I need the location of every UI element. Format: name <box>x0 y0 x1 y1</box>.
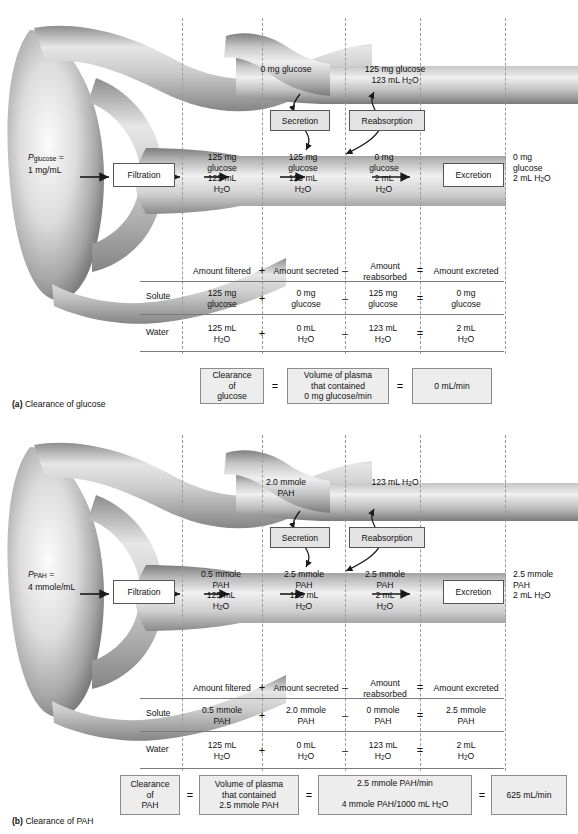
table-cell-solute-reabsorbed: 0 mmole PAH <box>345 705 421 726</box>
table-row-label-water: Water <box>146 327 169 338</box>
clearance-definition-box: Volume of plasma that contained 2.5 mmol… <box>199 775 299 815</box>
table-header-excreted: Amount excreted <box>424 683 508 694</box>
reabsorption-box[interactable]: Reabsorption <box>349 527 425 548</box>
vessel-secreted-line1: 2.0 mmole <box>266 477 306 487</box>
plasma-equals: = <box>49 569 54 579</box>
excreted-water: 2 mL H2O <box>513 590 551 600</box>
table-header-reabsorbed: Amount reabsorbed <box>349 261 421 282</box>
secretion-box[interactable]: Secretion <box>270 527 330 548</box>
table-header-reabsorbed: Amount reabsorbed <box>349 678 421 699</box>
vessel-reabsorbed-water: 123 mL H2O <box>371 477 418 487</box>
equation-equals-3: = <box>475 790 489 801</box>
stage-secretion-solute-unit: glucose <box>288 163 318 173</box>
tubule-stage-after-reabsorption: 0 mg glucose 2 mL H2O <box>349 152 419 197</box>
clearance-term-box: Clearance of PAH <box>120 775 180 815</box>
stage-reabsorption-solute: 0 mg <box>374 152 393 162</box>
table-cell-solute-excreted: 2.5 mmole PAH <box>422 705 510 726</box>
stage-secretion-solute: 2.5 mmole <box>284 569 324 579</box>
clearance-result-box: 0 mL/min <box>412 368 492 404</box>
stage-filtered-water-unit: H2O <box>213 601 229 611</box>
stage-reabsorption-solute-unit: PAH <box>376 580 393 590</box>
stage-reabsorption-solute-unit: glucose <box>369 163 399 173</box>
tubule-stage-after-secretion: 2.5 mmole PAH 125 mL H2O <box>264 569 344 614</box>
filtration-label: Filtration <box>128 587 161 597</box>
excretion-box[interactable]: Excretion <box>443 163 504 187</box>
table-header-secreted: Amount secreted <box>266 266 346 277</box>
secretion-box[interactable]: Secretion <box>270 110 330 131</box>
water-unit: H2O <box>458 334 474 344</box>
table-cell-solute-excreted: 0 mg glucose <box>424 288 508 309</box>
vessel-reabsorbed-label: 125 mg glucose 123 mL H2O <box>340 64 450 87</box>
table-cell-water-secreted: 0 mL H2O <box>266 323 346 346</box>
table-cell-solute-filtered: 125 mg glucose <box>182 288 262 309</box>
reabsorption-label: Reabsorption <box>361 116 412 126</box>
table-cell-water-excreted: 2 mL H2O <box>424 323 508 346</box>
stage-filtered-solute: 0.5 mmole <box>201 569 241 579</box>
excreted-output-label: 2.5 mmole PAH 2 mL H2O <box>513 569 578 603</box>
filtration-box[interactable]: Filtration <box>113 580 175 604</box>
stage-secretion-solute: 125 mg <box>289 152 318 162</box>
reabsorption-box[interactable]: Reabsorption <box>349 110 425 131</box>
stage-filtered-solute-unit: glucose <box>207 163 237 173</box>
water-unit: H2O <box>214 334 230 344</box>
excretion-label: Excretion <box>456 587 492 597</box>
table-header-filtered: Amount filtered <box>182 266 262 277</box>
table-row-label-water: Water <box>146 744 169 755</box>
excreted-solute-unit: glucose <box>513 163 543 173</box>
stage-reabsorption-water: 2 mL <box>375 590 394 600</box>
panel-b-caption-text: Clearance of PAH <box>25 816 93 826</box>
equation-equals-1: = <box>268 381 282 392</box>
excreted-water: 2 mL H2O <box>513 173 551 183</box>
equation-equals-2: = <box>302 790 316 801</box>
filtration-box[interactable]: Filtration <box>113 163 175 187</box>
stage-filtered-solute: 125 mg <box>208 152 237 162</box>
water-unit: H2O <box>375 334 391 344</box>
secretion-label: Secretion <box>282 533 318 543</box>
stage-secretion-water: 125 mL <box>290 590 319 600</box>
panel-a-caption-text: Clearance of glucose <box>25 399 106 409</box>
plasma-value: 4 mmole/mL <box>28 582 75 592</box>
ratio-numerator: 2.5 mmole PAH/min <box>357 778 433 788</box>
panel-a-caption-label: (a) <box>12 399 23 409</box>
water-unit: H2O <box>214 751 230 761</box>
vessel-secreted-label: 2.0 mmole PAH <box>240 477 332 498</box>
plasma-subscript: PAH <box>34 572 47 579</box>
excreted-solute: 0 mg <box>513 152 532 162</box>
plasma-value: 1 mg/mL <box>28 165 61 175</box>
table-cell-solute-secreted: 0 mg glucose <box>266 288 346 309</box>
water-unit: H2O <box>458 751 474 761</box>
tubule-stage-filtered: 0.5 mmole PAH 125 mL H2O <box>181 569 261 614</box>
plasma-subscript: glucose <box>34 155 57 162</box>
water-unit: H2O <box>298 334 314 344</box>
table-header-excreted: Amount excreted <box>424 266 508 277</box>
equation-equals-2: = <box>393 381 407 392</box>
clearance-term-box: Clearance of glucose <box>200 368 264 404</box>
stage-filtered-water-unit: H2O <box>214 184 230 194</box>
table-cell-water-excreted: 2 mL H2O <box>424 740 508 763</box>
ratio-denominator: 4 mmole PAH/1000 mL H2O <box>342 799 449 809</box>
vessel-reabsorbed-solute: 125 mg glucose <box>365 64 426 74</box>
plasma-equals: = <box>59 152 64 162</box>
table-rule-top <box>140 698 504 699</box>
clearance-definition-box: Volume of plasma that contained 0 mg glu… <box>287 368 389 404</box>
excretion-box[interactable]: Excretion <box>443 580 504 604</box>
figure-root: Pglucose = 1 mg/mL <box>0 0 578 834</box>
plasma-concentration-label: PPAH = 4 mmole/mL <box>28 569 75 592</box>
stage-secretion-water-unit: H2O <box>295 184 311 194</box>
table-cell-water-secreted: 0 mL H2O <box>266 740 346 763</box>
stage-reabsorption-water: 2 mL <box>374 173 393 183</box>
excreted-solute: 2.5 mmole <box>513 569 553 579</box>
stage-secretion-solute-unit: PAH <box>295 580 312 590</box>
table-cell-solute-reabsorbed: 125 mg glucose <box>345 288 421 309</box>
stage-filtered-water: 125 mL <box>207 590 236 600</box>
table-cell-water-reabsorbed: 123 mL H2O <box>345 740 421 763</box>
panel-b-caption-label: (b) <box>12 816 23 826</box>
table-rule-mid <box>140 314 504 315</box>
vessel-secreted-value: 0 mg glucose <box>260 64 311 74</box>
tubule-stage-after-reabsorption: 2.5 mmole PAH 2 mL H2O <box>346 569 424 614</box>
table-rule-top <box>140 281 504 282</box>
water-unit: H2O <box>298 751 314 761</box>
table-cell-solute-filtered: 0.5 mmole PAH <box>180 705 264 726</box>
table-header-secreted: Amount secreted <box>266 683 346 694</box>
stage-secretion-water-unit: H2O <box>296 601 312 611</box>
